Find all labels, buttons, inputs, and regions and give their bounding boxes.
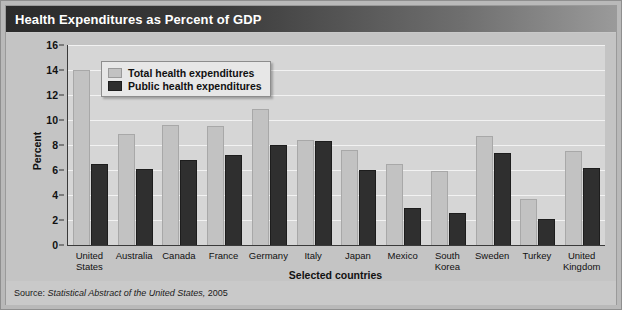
x-tick-label-line: Turkey bbox=[515, 250, 560, 261]
bar-public[interactable] bbox=[225, 155, 242, 245]
y-tick-mark bbox=[59, 45, 64, 46]
source-title: Statistical Abstract of the United State… bbox=[48, 288, 206, 298]
y-tick-label: 6 bbox=[52, 164, 58, 176]
bar-total[interactable] bbox=[73, 70, 90, 245]
legend-swatch-total bbox=[108, 68, 122, 78]
bar-public[interactable] bbox=[180, 160, 197, 245]
bar-public[interactable] bbox=[404, 208, 421, 246]
source-bar: Source: Statistical Abstract of the Unit… bbox=[6, 281, 616, 305]
bar-group bbox=[471, 45, 516, 245]
x-tick-label-line: Germany bbox=[246, 250, 291, 261]
y-tick-label: 10 bbox=[46, 114, 58, 126]
y-tick-label: 2 bbox=[52, 214, 58, 226]
y-tick-mark bbox=[59, 220, 64, 221]
page-title: Health Expenditures as Percent of GDP bbox=[6, 12, 261, 27]
y-tick-mark bbox=[59, 170, 64, 171]
bar-public[interactable] bbox=[359, 170, 376, 245]
y-tick-mark bbox=[59, 195, 64, 196]
y-tick-mark bbox=[59, 70, 64, 71]
bar-total[interactable] bbox=[565, 151, 582, 245]
bar-group bbox=[337, 45, 382, 245]
y-tick-mark bbox=[59, 120, 64, 121]
chart-plot-card: Percent 1614121086420 Total health expen… bbox=[6, 33, 616, 281]
bar-public[interactable] bbox=[538, 219, 555, 245]
x-tick-label-line: United bbox=[67, 250, 112, 261]
bar-total[interactable] bbox=[520, 199, 537, 245]
x-tick-label-line: Japan bbox=[336, 250, 381, 261]
bar-public[interactable] bbox=[136, 169, 153, 245]
bar-public[interactable] bbox=[494, 153, 511, 246]
chart-figure: Health Expenditures as Percent of GDP Pe… bbox=[0, 0, 622, 310]
x-tick-label-line: Sweden bbox=[470, 250, 515, 261]
y-tick-mark bbox=[59, 145, 64, 146]
legend-swatch-public bbox=[108, 81, 122, 91]
bar-total[interactable] bbox=[118, 134, 135, 245]
y-tick-label: 12 bbox=[46, 89, 58, 101]
legend-label: Public health expenditures bbox=[128, 80, 262, 92]
source-note: Source: Statistical Abstract of the Unit… bbox=[6, 288, 228, 298]
bar-group bbox=[560, 45, 605, 245]
bar-public[interactable] bbox=[270, 145, 287, 245]
x-tick-label-line: Canada bbox=[157, 250, 202, 261]
source-year: 2005 bbox=[205, 288, 228, 298]
bar-total[interactable] bbox=[341, 150, 358, 245]
x-tick-label-line: Mexico bbox=[380, 250, 425, 261]
x-tick-label-line: United bbox=[559, 250, 604, 261]
bar-total[interactable] bbox=[297, 140, 314, 245]
legend-label: Total health expenditures bbox=[128, 67, 254, 79]
source-prefix: Source: bbox=[14, 288, 48, 298]
x-axis-title: Selected countries bbox=[67, 269, 604, 281]
legend-item: Total health expenditures bbox=[108, 66, 262, 79]
bar-total[interactable] bbox=[386, 164, 403, 245]
y-tick-mark bbox=[59, 95, 64, 96]
title-bar: Health Expenditures as Percent of GDP bbox=[6, 6, 616, 32]
bar-public[interactable] bbox=[449, 213, 466, 246]
x-tick-label-line: Australia bbox=[112, 250, 157, 261]
bar-total[interactable] bbox=[162, 125, 179, 245]
bar-group bbox=[381, 45, 426, 245]
bar-total[interactable] bbox=[476, 136, 493, 245]
x-tick-label-line: South bbox=[425, 250, 470, 261]
bar-total[interactable] bbox=[431, 171, 448, 245]
y-tick-label: 8 bbox=[52, 139, 58, 151]
y-tick-label: 4 bbox=[52, 189, 58, 201]
bar-total[interactable] bbox=[252, 109, 269, 245]
y-axis-ticks: 1614121086420 bbox=[38, 33, 64, 281]
bar-group bbox=[292, 45, 337, 245]
x-tick-label-line: Italy bbox=[291, 250, 336, 261]
chart-legend: Total health expendituresPublic health e… bbox=[101, 61, 271, 97]
y-tick-mark bbox=[59, 245, 64, 246]
bar-public[interactable] bbox=[315, 141, 332, 245]
bar-public[interactable] bbox=[583, 168, 600, 246]
x-tick-label-line: France bbox=[201, 250, 246, 261]
y-tick-label: 16 bbox=[46, 39, 58, 51]
y-tick-label: 0 bbox=[52, 239, 58, 251]
bar-group bbox=[516, 45, 561, 245]
legend-item: Public health expenditures bbox=[108, 79, 262, 92]
bar-total[interactable] bbox=[207, 126, 224, 245]
bar-group bbox=[426, 45, 471, 245]
y-tick-label: 14 bbox=[46, 64, 58, 76]
bar-public[interactable] bbox=[91, 164, 108, 245]
